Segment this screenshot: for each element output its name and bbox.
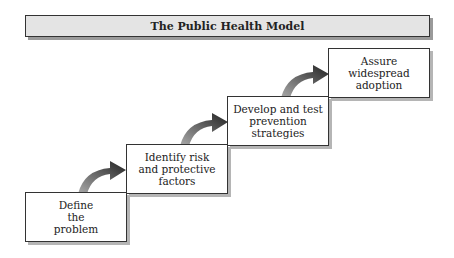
curved-arrow-icon [273, 62, 333, 98]
diagram-title: The Public Health Model [25, 15, 430, 37]
curved-arrow-icon [70, 158, 130, 194]
step-identify-factors: Identify risk and protective factors [126, 144, 228, 194]
step-develop-strategies: Develop and test prevention strategies [227, 96, 329, 146]
step-assure-adoption: Assure widespread adoption [328, 48, 430, 98]
step-define-problem: Define the problem [25, 192, 127, 242]
curved-arrow-icon [172, 110, 232, 146]
